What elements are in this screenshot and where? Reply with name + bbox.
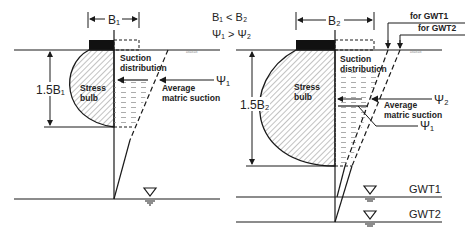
b1-width-label: B₁ (108, 13, 120, 27)
gwt1-callout: for GWT1 (410, 11, 449, 21)
stress-bulb-right (259, 50, 335, 166)
right-panel: ≈≈≈ B₂ for GWT1 for GWT2 (236, 11, 465, 226)
suction-distribution-label-right: Suction (340, 54, 371, 64)
footing-b1 (89, 40, 114, 50)
suction-zone (114, 80, 152, 127)
svg-text:bulb: bulb (80, 93, 98, 103)
stress-bulb-label-right: Stress (294, 82, 320, 92)
gwt1-label: GWT1 (409, 183, 441, 195)
water-table-icon (144, 188, 156, 205)
water-table-icon (364, 186, 376, 201)
svg-text:matric suction: matric suction (384, 110, 442, 120)
width-relation-text: B₁ < B₂ (212, 11, 247, 23)
gwt2-label: GWT2 (409, 208, 441, 220)
footing-b2 (296, 40, 335, 50)
depth-label-right: 1.5B₂ (240, 98, 270, 112)
water-table-icon (364, 211, 376, 226)
svg-text:matric suction: matric suction (162, 93, 220, 103)
suction-distribution-label-left: Suction (120, 53, 151, 63)
left-panel: ≈≈≈ B₁ 1.5B₁ Stress bulb Suction distrib… (14, 12, 230, 205)
suction-stress-bulb-diagram: ≈≈≈ B₁ 1.5B₁ Stress bulb Suction distrib… (0, 0, 469, 239)
gwt2-callout: for GWT2 (418, 23, 457, 33)
svg-text:bulb: bulb (294, 92, 312, 102)
suction-relation-text: Ψ₁ > Ψ₂ (212, 28, 251, 40)
psi2-label: Ψ₂ (434, 93, 449, 107)
stress-bulb-label-left: Stress (80, 83, 106, 93)
psi1-label-left: Ψ₁ (216, 74, 230, 88)
psi1-label-right: Ψ₁ (420, 119, 434, 133)
depth-label-left: 1.5B₁ (36, 83, 65, 97)
b2-width-label: B₂ (328, 14, 341, 28)
ground-texture-icon: ≈≈≈ (186, 48, 198, 56)
svg-text:distribution: distribution (120, 63, 167, 73)
ground-texture-icon: ≈≈≈ (410, 48, 422, 56)
avg-suction-label-left: Average (162, 83, 196, 93)
avg-suction-label-right: Average (384, 100, 418, 110)
svg-text:distribution: distribution (340, 64, 387, 74)
